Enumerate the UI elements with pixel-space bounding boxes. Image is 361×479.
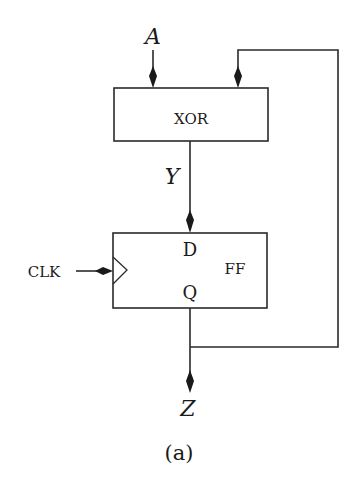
port-d-label: D: [183, 239, 197, 260]
circuit-diagram: A XOR Y D FF Q CLK Z (a): [0, 0, 361, 479]
arrow-icon: [186, 210, 194, 233]
arrow-icon: [234, 66, 242, 88]
xor-label: XOR: [174, 110, 209, 128]
clk-wire: [76, 267, 113, 275]
signal-y-label: Y: [165, 164, 182, 189]
arrow-icon: [149, 66, 157, 88]
signal-z-label: Z: [179, 396, 196, 421]
ff-label: FF: [225, 260, 246, 278]
port-q-label: Q: [183, 282, 198, 303]
ff-block: D FF Q: [113, 233, 267, 308]
z-output-wire: [186, 308, 194, 393]
arrow-icon: [186, 370, 194, 393]
clk-label: CLK: [28, 263, 61, 281]
xor-block: XOR: [114, 88, 268, 141]
y-wire: [186, 141, 194, 233]
input-a-wire: [149, 50, 157, 88]
arrow-icon: [95, 267, 113, 275]
input-a-label: A: [143, 24, 161, 49]
figure-caption: (a): [165, 441, 194, 465]
